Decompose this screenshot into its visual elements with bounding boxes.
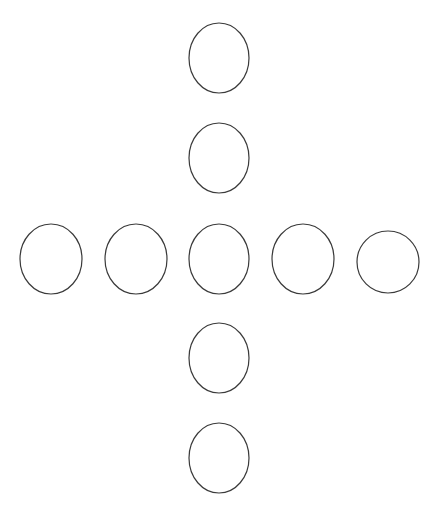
ellipse-mid-4 [272,224,334,294]
ellipse-top-2 [189,123,249,193]
circle-mid-5 [357,231,419,293]
ellipse-mid-1 [20,224,82,294]
ellipse-bottom-1 [189,323,249,393]
ellipse-mid-2 [105,224,167,294]
ellipse-top-1 [189,23,249,93]
ellipse-center [189,224,249,294]
ellipse-bottom-2 [189,423,249,493]
cross-diagram [0,0,439,524]
